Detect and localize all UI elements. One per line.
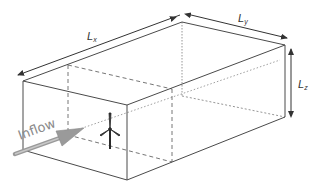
- inner-cross-section-plane: [68, 65, 172, 162]
- lx-dimension-arrow: Lx: [18, 15, 180, 75]
- lz-dimension-arrow: Lz: [291, 49, 308, 117]
- centerline: [68, 60, 280, 133]
- lz-label: Lz: [298, 78, 308, 91]
- box-visible-edges: [23, 22, 285, 180]
- inflow-arrow: Inflow: [15, 115, 84, 154]
- ly-label: Ly: [238, 12, 248, 26]
- computational-domain-diagram: Lx Ly Lz Inflow: [0, 0, 321, 184]
- lx-label: Lx: [87, 30, 97, 43]
